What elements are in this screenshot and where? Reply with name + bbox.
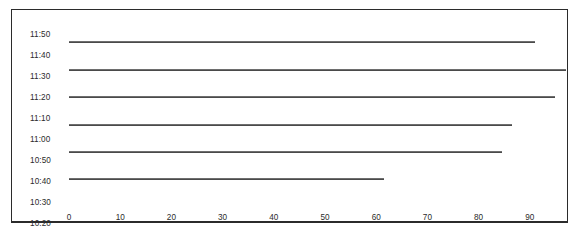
y-axis-tick-label: 10:50 — [30, 157, 66, 165]
y-axis-tick-label: 10:30 — [30, 199, 66, 207]
y-axis-tick-label: 11:40 — [30, 52, 66, 60]
bar — [69, 69, 566, 71]
bar — [69, 41, 535, 43]
x-axis-line — [11, 221, 568, 222]
y-axis-tick-label: 10:40 — [30, 178, 66, 186]
y-axis-tick-label: 11:50 — [30, 31, 66, 39]
plot-frame: 11:5011:4011:3011:2011:1011:0010:5010:40… — [11, 9, 568, 223]
y-axis-tick-label: 11:00 — [30, 136, 66, 144]
y-axis-tick-label: 11:20 — [30, 94, 66, 102]
bar — [69, 96, 555, 98]
y-axis-tick-label: 11:10 — [30, 115, 66, 123]
y-axis-tick-label: 11:30 — [30, 73, 66, 81]
bar — [69, 124, 512, 126]
bar — [69, 151, 502, 153]
plot-area — [69, 26, 569, 204]
chart-figure: 11:5011:4011:3011:2011:1011:0010:5010:40… — [0, 0, 580, 233]
bar — [69, 178, 384, 180]
